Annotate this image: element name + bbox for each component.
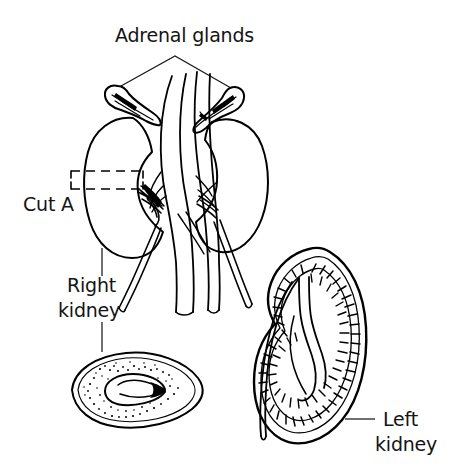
- label-left-kidney-line1: Left: [383, 408, 418, 430]
- label-left-kidney-line2: kidney: [375, 433, 437, 455]
- label-right-kidney-line1: Right: [67, 274, 116, 296]
- illustration-canvas: Adrenal glands Cut A Right kidney Left k…: [0, 0, 463, 472]
- label-right-kidney-line2: kidney: [58, 299, 120, 321]
- label-adrenal-glands: Adrenal glands: [115, 24, 254, 46]
- label-cut-a: Cut A: [23, 193, 74, 215]
- background: [0, 0, 463, 472]
- kidney-anatomy-figure: Adrenal glands Cut A Right kidney Left k…: [0, 0, 463, 472]
